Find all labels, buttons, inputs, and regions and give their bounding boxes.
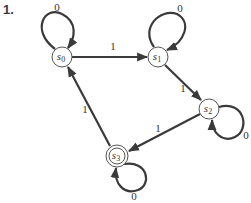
state-s0: s0 [52,47,72,67]
transition-label: 1 [180,82,186,94]
transition-s1-s1: 0 [149,2,185,50]
transition-label: 1 [155,122,161,134]
state-s3-accepting: s3 [106,145,128,167]
transition-s0-s0: 0 [42,1,74,49]
transition-label: 1 [82,103,88,115]
transition-label: 0 [54,1,60,13]
state-s2: s2 [199,99,219,119]
transition-label: 0 [243,129,249,141]
transition-s1-s2: 1 [165,65,201,100]
transition-label: 0 [131,190,137,202]
transition-s0-s1: 1 [72,40,147,57]
transition-label: 0 [177,2,183,14]
transition-s3-s3: 0 [116,164,146,202]
transition-s2-s3: 1 [129,114,200,151]
transition-label: 1 [110,40,116,52]
state-diagram: 0 1 0 1 0 1 0 1 s0 s1 [0,0,251,203]
state-s1: s1 [148,47,168,67]
transition-s3-s0: 1 [68,67,110,146]
